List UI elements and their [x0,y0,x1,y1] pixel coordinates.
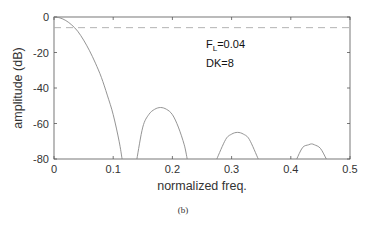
y-tick-label: -60 [33,118,49,130]
plot-area [54,17,350,159]
figure-caption: (b) [178,205,189,215]
x-tick-label: 0.3 [224,163,239,175]
y-tick-label: -80 [33,153,49,165]
y-axis-label: amplitude (dB) [11,47,25,128]
x-tick-label: 0.5 [342,163,357,175]
y-tick-label: -40 [33,82,49,94]
x-tick-label: 0.2 [165,163,180,175]
x-tick-label: 0.1 [106,163,121,175]
annotation-dk: DK=8 [206,57,234,69]
x-tick-label: 0.4 [283,163,298,175]
x-axis-label: normalized freq. [157,179,247,193]
y-tick-label: -20 [33,47,49,59]
y-tick-label: 0 [43,11,49,23]
x-tick-label: 0 [51,163,57,175]
amplitude-chart: 00.10.20.30.40.50-20-40-60-80 normalized… [0,0,370,231]
